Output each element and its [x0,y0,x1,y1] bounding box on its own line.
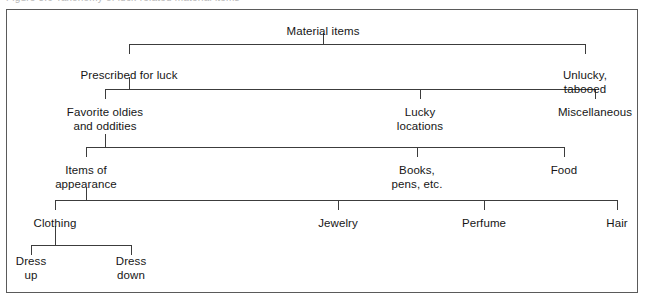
tree-node-favorite-oldies: Favorite oldies and oddities [67,106,143,133]
tree-node-prescribed-for-luck: Prescribed for luck [80,69,177,83]
tree-node-material-items: Material items [287,25,360,39]
tree-node-books-pens-etc: Books, pens, etc. [392,164,443,191]
tree-node-items-of-appearance: Items of appearance [55,164,117,191]
tree-connector-lines [0,0,646,303]
tree-node-miscellaneous: Miscellaneous [558,106,632,120]
tree-node-perfume: Perfume [462,217,506,231]
tree-node-dress-down: Dress down [116,255,147,282]
tree-node-dress-up: Dress up [16,255,47,282]
tree-node-hair: Hair [606,217,628,231]
tree-node-lucky-locations: Lucky locations [397,106,443,133]
tree-node-jewelry: Jewelry [318,217,358,231]
tree-node-unlucky-tabooed: Unlucky, tabooed [555,69,616,96]
tree-node-clothing: Clothing [34,217,77,231]
tree-diagram: Material itemsPrescribed for luckUnlucky… [0,0,646,303]
tree-node-food: Food [551,164,578,178]
